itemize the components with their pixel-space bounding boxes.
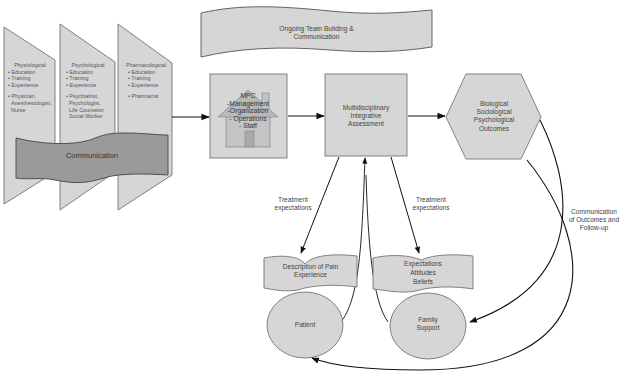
panel-role: Psychologist,	[66, 100, 112, 107]
pain-line: Experience	[264, 271, 357, 279]
assessment-line: Multidisciplinary	[325, 104, 407, 112]
beliefs-line: Beliefs	[373, 277, 473, 286]
panel-psychological-text: Psychological • Education • Training • E…	[64, 62, 112, 120]
mpc-line: MPC	[218, 92, 278, 100]
mpc-line: -Organization	[218, 107, 278, 115]
communication-label: Communication	[16, 152, 168, 160]
panel-title: Physiological	[6, 62, 54, 69]
mpc-label: MPC -Management -Organization - Operatio…	[218, 92, 278, 130]
panel-item: • Experience	[66, 82, 112, 89]
panel-physiological-text: Physiological • Education • Training • E…	[6, 62, 54, 113]
panel-item: • Education	[66, 69, 112, 76]
outcomes-line: Sociological	[456, 108, 532, 116]
beliefs-line: Expectations	[373, 259, 473, 268]
followup-line: Communication	[562, 208, 626, 216]
panel-item: • Experience	[8, 82, 54, 89]
panel-item: • Education	[128, 69, 174, 76]
panel-role: • Pharmacist	[128, 93, 174, 100]
pain-description-label: Description of Pain Experience	[264, 263, 357, 279]
mpc-line: -Management	[218, 100, 278, 108]
followup-label: Communication of Outcomes and Follow-up	[562, 208, 626, 233]
panel-item: • Training	[66, 75, 112, 82]
panel-role: Anesthesiologist,	[8, 100, 54, 107]
treatment-expectations-right: Treatment expectations	[406, 196, 456, 212]
treatment-line: expectations	[268, 204, 318, 212]
team-building-label: Ongoing Team Building & Communication	[201, 25, 432, 41]
panel-title: Pharmacological	[118, 62, 174, 69]
mpc-line: - Staff	[218, 122, 278, 130]
family-line: Support	[390, 324, 466, 332]
outcomes-line: Psychological	[456, 116, 532, 124]
pain-line: Description of Pain	[264, 263, 357, 271]
panel-pharmacological-text: Pharmacological • Education • Training •…	[118, 62, 174, 100]
outcomes-label: Biological Sociological Psychological Ou…	[456, 100, 532, 133]
panel-item: • Experience	[128, 82, 174, 89]
panel-role: Nurse	[8, 107, 54, 114]
family-support-label: Family Support	[390, 316, 466, 332]
panel-role: Life Counselor,	[66, 107, 112, 114]
family-line: Family	[390, 316, 466, 324]
followup-line: of Outcomes and	[562, 216, 626, 224]
panel-role: • Physician,	[8, 93, 54, 100]
treatment-expectations-left: Treatment expectations	[268, 196, 318, 212]
treatment-line: Treatment	[406, 196, 456, 204]
outcomes-line: Biological	[456, 100, 532, 108]
panel-role: • Psychiatrist,	[66, 93, 112, 100]
team-building-line: Communication	[201, 33, 432, 41]
assessment-line: Integrative	[325, 112, 407, 120]
panel-item: • Training	[8, 75, 54, 82]
treatment-line: Treatment	[268, 196, 318, 204]
curve-family-to-assessment	[366, 175, 388, 322]
followup-line: Follow-up	[562, 224, 626, 232]
mpc-line: - Operations	[218, 115, 278, 123]
beliefs-line: Attitudes	[373, 268, 473, 277]
panel-title: Psychological	[64, 62, 112, 69]
panel-item: • Training	[128, 75, 174, 82]
arrow-patient-to-assessment	[340, 158, 365, 323]
patient-label: Patient	[267, 321, 343, 329]
assessment-line: Assessment	[325, 120, 407, 128]
assessment-label: Multidisciplinary Integrative Assessment	[325, 104, 407, 129]
panel-role: Social Worker	[66, 113, 112, 120]
panel-pharmacological	[118, 24, 172, 210]
panel-item: • Education	[8, 69, 54, 76]
team-building-line: Ongoing Team Building &	[201, 25, 432, 33]
treatment-line: expectations	[406, 204, 456, 212]
beliefs-label: Expectations Attitudes Beliefs	[373, 259, 473, 286]
outcomes-line: Outcomes	[456, 125, 532, 133]
